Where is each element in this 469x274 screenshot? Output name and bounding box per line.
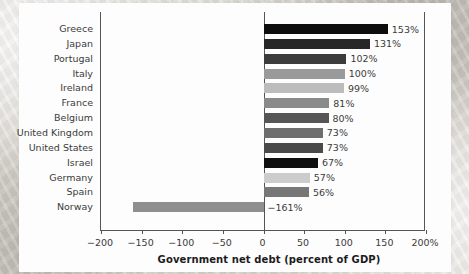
y-axis-label: Greece xyxy=(15,24,93,34)
bar xyxy=(264,98,330,108)
x-tick xyxy=(264,230,265,234)
x-axis-tick-labels: −200−150−100−50050100150200% xyxy=(100,238,425,250)
y-axis-label: France xyxy=(15,98,93,108)
y-axis-label: Germany xyxy=(15,173,93,183)
y-axis-label: Spain xyxy=(15,187,93,197)
y-axis-label: United States xyxy=(15,143,93,153)
bar xyxy=(264,143,323,153)
chart-card: GreeceJapanPortugalItalyIrelandFranceBel… xyxy=(19,3,451,272)
x-tick-label: −150 xyxy=(128,238,154,248)
bar xyxy=(133,202,264,212)
x-tick-label: 0 xyxy=(259,238,265,248)
bar xyxy=(264,113,329,123)
bar xyxy=(264,24,388,34)
bar xyxy=(264,158,318,168)
y-axis-label: Italy xyxy=(15,69,93,79)
bar xyxy=(264,83,344,93)
x-tick xyxy=(223,230,224,234)
y-axis-label: Belgium xyxy=(15,113,93,123)
x-tick xyxy=(426,230,427,234)
page-background: GreeceJapanPortugalItalyIrelandFranceBel… xyxy=(0,0,469,274)
x-tick xyxy=(304,230,305,234)
y-axis-label: Israel xyxy=(15,158,93,168)
y-axis-label: United Kingdom xyxy=(15,128,93,138)
x-tick xyxy=(385,230,386,234)
bar-value-label: 81% xyxy=(333,99,354,109)
x-tick-label: −200 xyxy=(87,238,113,248)
bar-value-label: 102% xyxy=(350,54,377,64)
bar-value-label: 57% xyxy=(314,173,335,183)
bar-value-label: 67% xyxy=(322,158,343,168)
bar-value-label: 56% xyxy=(313,188,334,198)
bar xyxy=(264,69,345,79)
bar xyxy=(264,54,347,64)
y-axis-label: Ireland xyxy=(15,83,93,93)
x-tick-label: 100 xyxy=(335,238,353,248)
x-tick xyxy=(182,230,183,234)
bar xyxy=(264,187,310,197)
x-tick-label: 150 xyxy=(375,238,393,248)
plot-area: 153%131%102%100%99%81%80%73%73%67%57%56%… xyxy=(100,12,425,231)
x-tick xyxy=(345,230,346,234)
y-axis-label: Norway xyxy=(15,202,93,212)
bar-series: 153%131%102%100%99%81%80%73%73%67%57%56%… xyxy=(101,12,424,230)
bar xyxy=(264,128,323,138)
bar-value-label: 73% xyxy=(327,128,348,138)
bar xyxy=(264,39,370,49)
x-tick-label: 50 xyxy=(297,238,309,248)
bar-value-label: 80% xyxy=(333,114,354,124)
x-tick-label: −100 xyxy=(168,238,194,248)
bar-value-label: 153% xyxy=(392,25,419,35)
bar-value-label: 99% xyxy=(348,84,369,94)
x-tick xyxy=(142,230,143,234)
x-axis-title: Government net debt (percent of GDP) xyxy=(100,254,438,265)
x-tick xyxy=(101,230,102,234)
y-axis-label: Japan xyxy=(15,39,93,49)
bar xyxy=(264,173,310,183)
bar-value-label: −161% xyxy=(268,203,303,213)
y-axis-category-labels: GreeceJapanPortugalItalyIrelandFranceBel… xyxy=(19,15,97,225)
x-tick-label: −50 xyxy=(212,238,232,248)
x-tick-label: 200% xyxy=(411,238,438,248)
bar-value-label: 100% xyxy=(349,69,376,79)
y-axis-label: Portugal xyxy=(15,54,93,64)
bar-value-label: 73% xyxy=(327,143,348,153)
bar-value-label: 131% xyxy=(374,39,401,49)
